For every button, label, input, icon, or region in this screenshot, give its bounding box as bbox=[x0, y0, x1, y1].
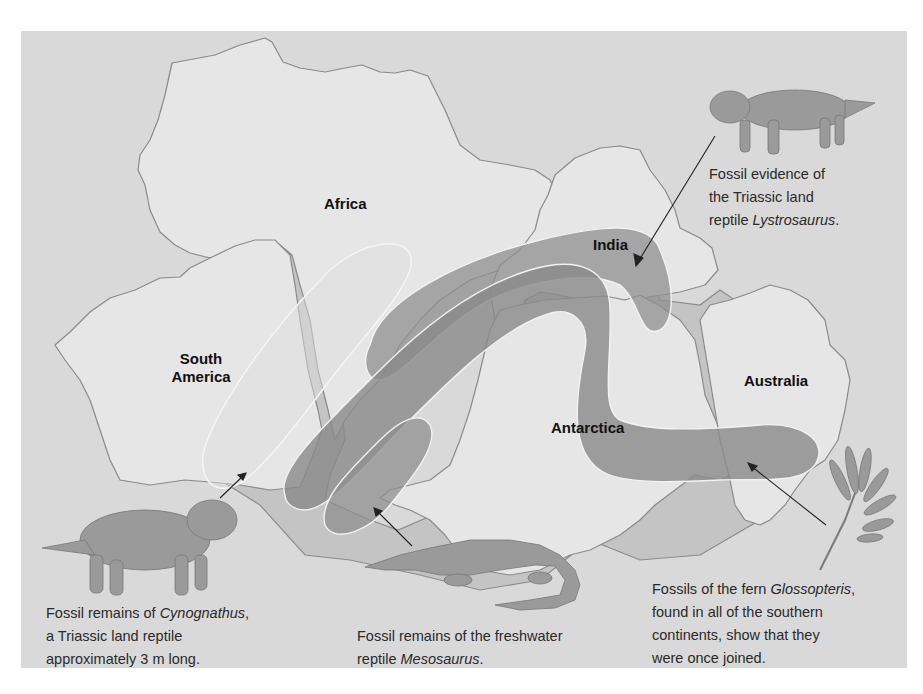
caption-punct: . bbox=[835, 212, 839, 228]
species-name: Lystrosaurus bbox=[753, 212, 836, 228]
caption-line: approximately 3 m long. bbox=[46, 648, 249, 668]
caption-line: continents, show that they bbox=[652, 624, 855, 647]
species-name: Cynognathus bbox=[160, 605, 245, 621]
cynognathus-illustration bbox=[42, 500, 237, 595]
caption-glossopteris: Fossils of the fern Glossopteris, found … bbox=[652, 578, 855, 668]
caption-line: Fossil remains of Cynognathus, bbox=[46, 602, 249, 625]
figure-panel: Africa South America India Antarctica Au… bbox=[21, 31, 907, 668]
caption-line: Fossil remains of the freshwater bbox=[357, 625, 563, 648]
species-name: Mesosaurus bbox=[401, 651, 480, 667]
caption-lystrosaurus: Fossil evidence of the Triassic land rep… bbox=[709, 163, 839, 232]
label-south-america: South America bbox=[141, 350, 261, 386]
caption-line: reptile Mesosaurus. bbox=[357, 648, 563, 668]
caption-line: the Triassic land bbox=[709, 186, 839, 209]
caption-text: reptile bbox=[357, 651, 401, 667]
caption-cynognathus: Fossil remains of Cynognathus, a Triassi… bbox=[46, 602, 249, 668]
caption-line: found in all of the southern bbox=[652, 601, 855, 624]
label-australia: Australia bbox=[744, 372, 808, 390]
label-south-america-line1: South bbox=[141, 350, 261, 368]
caption-text: reptile bbox=[709, 212, 753, 228]
caption-punct: . bbox=[480, 651, 484, 667]
caption-line: were once joined. bbox=[652, 647, 855, 668]
label-south-america-line2: America bbox=[141, 368, 261, 386]
caption-text: Fossils of the fern bbox=[652, 581, 770, 597]
label-africa: Africa bbox=[324, 195, 367, 213]
label-antarctica: Antarctica bbox=[551, 419, 624, 437]
caption-line: Fossils of the fern Glossopteris, bbox=[652, 578, 855, 601]
caption-punct: , bbox=[245, 605, 249, 621]
caption-line: Fossil evidence of bbox=[709, 163, 839, 186]
caption-line: reptile Lystrosaurus. bbox=[709, 209, 839, 232]
glossopteris-illustration bbox=[820, 445, 898, 570]
caption-mesosaurus: Fossil remains of the freshwater reptile… bbox=[357, 625, 563, 668]
lystrosaurus-illustration bbox=[710, 90, 875, 154]
caption-line: a Triassic land reptile bbox=[46, 625, 249, 648]
label-india: India bbox=[593, 236, 628, 254]
species-name: Glossopteris bbox=[770, 581, 851, 597]
caption-punct: , bbox=[851, 581, 855, 597]
caption-text: Fossil remains of bbox=[46, 605, 160, 621]
